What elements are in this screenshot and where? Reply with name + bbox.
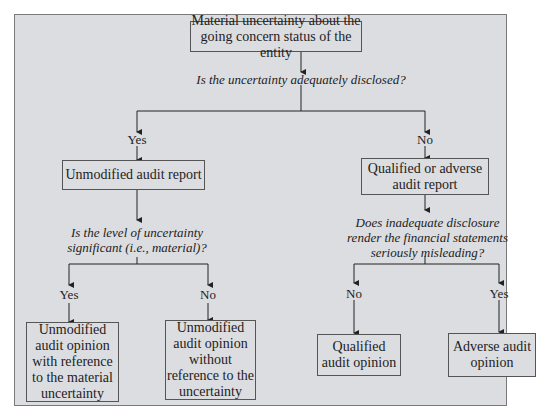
outcome-qualified-opinion: Qualified audit opinion: [317, 334, 401, 376]
label-yes-disclosed: Yes: [122, 132, 152, 148]
root-box: Material uncertainty about the going con…: [190, 21, 362, 52]
outcome-unmodified-without-reference: Unmodified audit opinion without referen…: [165, 320, 256, 400]
label-no-disclosed: No: [410, 132, 440, 148]
label-no-misleading: No: [339, 286, 369, 302]
outcome-adverse-opinion: Adverse audit opinion: [448, 333, 536, 377]
question-misleading: Does inadequate disclosure render the fi…: [340, 215, 515, 260]
label-no-significant: No: [193, 287, 223, 303]
outcome-unmodified-with-reference: Unmodified audit opinion with reference …: [26, 322, 119, 402]
label-yes-significant: Yes: [54, 287, 84, 303]
qualified-or-adverse-report-box: Qualified or adverse audit report: [361, 158, 489, 195]
unmodified-audit-report-box: Unmodified audit report: [62, 160, 205, 190]
question-disclosed: Is the uncertainty adequately disclosed?: [180, 72, 422, 87]
question-significant: Is the level of uncertainty significant …: [62, 225, 212, 255]
label-yes-misleading: Yes: [484, 286, 514, 302]
